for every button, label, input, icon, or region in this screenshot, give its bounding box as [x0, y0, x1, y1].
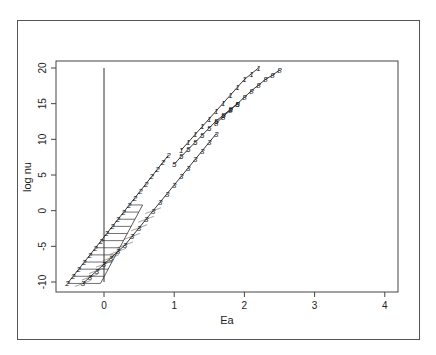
series-2-marker: 2	[165, 151, 171, 160]
series-8-marker: 8	[263, 75, 268, 84]
series-2-marker: 2	[92, 244, 98, 253]
x-tick-label: 2	[242, 300, 248, 311]
y-axis-title: log nu	[21, 162, 33, 192]
series-1-marker: 1	[242, 75, 246, 84]
series-3-marker: 3	[116, 247, 121, 256]
series-3-marker: 3	[193, 155, 198, 164]
y-tick-label: -10	[37, 274, 48, 289]
series-8-marker: 8	[214, 119, 219, 128]
series-8-marker: 8	[235, 100, 240, 109]
series-8-marker: 8	[242, 93, 247, 102]
x-tick-label: 3	[312, 300, 318, 311]
series-2-marker: 2	[70, 272, 76, 281]
series-1-marker: 1	[221, 99, 225, 108]
series-2-marker: 2	[87, 251, 93, 260]
series-3-marker: 3	[130, 232, 135, 241]
series-2-marker: 2	[115, 215, 121, 224]
series-3-marker: 3	[137, 224, 142, 233]
series-1-marker: 1	[228, 91, 232, 100]
series-2-marker: 2	[98, 237, 104, 246]
series-3-marker: 3	[88, 273, 93, 282]
series-3-marker: 3	[207, 138, 212, 147]
y-tick-label: 10	[37, 133, 48, 145]
series-5-marker: 5	[193, 138, 198, 147]
y-tick-label: 20	[37, 62, 48, 74]
series-2-marker: 2	[160, 158, 166, 167]
series-2-marker: 2	[104, 229, 110, 238]
series-5-marker: 5	[186, 145, 191, 154]
series-3-marker: 3	[200, 147, 205, 156]
x-axis-title: Ea	[220, 314, 234, 326]
chart: 01234-10-505101520 222222222222222222233…	[0, 0, 436, 355]
series-2-marker: 2	[143, 180, 149, 189]
x-tick-label: 0	[101, 300, 107, 311]
series-8-marker: 8	[277, 66, 282, 75]
series-3-marker: 3	[81, 279, 86, 288]
series-8-marker: 8	[221, 113, 226, 122]
series-2-marker: 2	[81, 258, 87, 267]
series-3-marker: 3	[109, 254, 114, 263]
series-5-marker: 5	[207, 124, 212, 133]
series-3-marker: 3	[123, 241, 128, 250]
series-2-marker: 2	[64, 279, 70, 288]
y-tick-label: -5	[37, 241, 48, 250]
y-tick-label: 0	[37, 207, 48, 213]
series-8-marker: 8	[228, 106, 233, 115]
series-5-marker: 5	[179, 152, 184, 161]
x-tick-label: 4	[382, 300, 388, 311]
series-3-marker: 3	[95, 267, 100, 276]
series-3-marker: 3	[186, 164, 191, 173]
plot-box	[56, 61, 398, 292]
series-1-marker: 1	[207, 115, 211, 124]
series-1-marker: 1	[249, 70, 253, 79]
y-tick-label: 5	[37, 172, 48, 178]
series-2-marker: 2	[120, 208, 126, 217]
y-tick-label: 15	[37, 98, 48, 110]
series-1-marker: 1	[235, 83, 239, 92]
series-3-marker: 3	[151, 207, 156, 216]
series-1-marker: 1	[256, 64, 260, 73]
series-8-marker: 8	[256, 81, 261, 90]
series-2-marker: 2	[76, 265, 82, 274]
series-2-marker: 2	[137, 187, 143, 196]
series-3-marker: 3	[214, 130, 219, 139]
series-3-marker: 3	[158, 198, 163, 207]
series-2-marker: 2	[154, 165, 160, 174]
series-1-marker: 1	[214, 107, 218, 116]
series-8-marker: 8	[270, 71, 275, 80]
series-5-marker: 5	[200, 131, 205, 140]
series-3-marker: 3	[179, 172, 184, 181]
series-3-marker: 3	[102, 260, 107, 269]
series-2-marker: 2	[149, 172, 155, 181]
series-3-marker: 3	[165, 190, 170, 199]
series-2-marker: 2	[126, 201, 132, 210]
series-2-marker: 2	[109, 222, 115, 231]
series-3-marker: 3	[172, 181, 177, 190]
series-3-marker: 3	[144, 215, 149, 224]
x-tick-label: 1	[171, 300, 177, 311]
series-2-marker: 2	[132, 194, 138, 203]
series-8-marker: 8	[249, 87, 254, 96]
series-5-marker: 5	[172, 160, 177, 169]
